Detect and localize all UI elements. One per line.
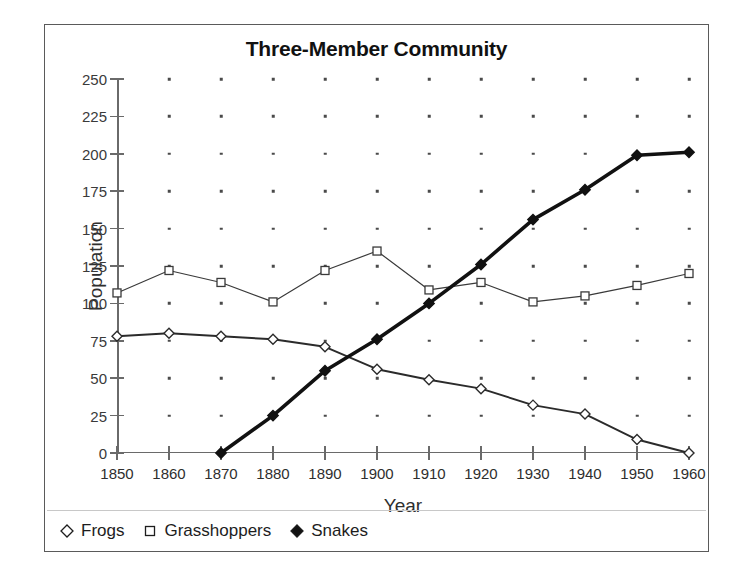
legend-item-frogs: Frogs [59,521,124,541]
filled-diamond-icon [289,523,305,539]
x-tick-label: 1850 [100,465,133,482]
x-axis-title: Year [117,495,689,517]
data-point-marker [685,269,693,277]
series-frogs [112,328,694,458]
series-grasshoppers [113,247,693,306]
data-point-marker [321,266,329,274]
data-point-marker [580,409,590,419]
y-tick-label: 125 [82,258,107,275]
x-tick-label: 1930 [516,465,549,482]
series-snakes [216,147,694,458]
chart-figure: Three-Member Community Population 250225… [44,24,709,552]
y-tick-label: 50 [90,370,107,387]
x-tick-label: 1880 [256,465,289,482]
legend-divider [47,510,706,511]
y-tick-label: 175 [82,183,107,200]
x-tick-label: 1860 [152,465,185,482]
data-point-marker [424,375,434,385]
open-square-icon [142,523,158,539]
data-point-marker [581,292,589,300]
data-point-marker [320,342,330,352]
data-point-marker [684,147,694,157]
data-point-marker [373,247,381,255]
legend-item-label: Grasshoppers [164,521,271,541]
legend-item-snakes: Snakes [289,521,368,541]
x-tick-label: 1910 [412,465,445,482]
data-point-marker [528,400,538,410]
data-point-marker [217,278,225,286]
chart-legend: FrogsGrasshoppersSnakes [59,521,368,541]
y-tick-label: 25 [90,407,107,424]
y-tick-label: 75 [90,332,107,349]
y-tick-label: 100 [82,295,107,312]
x-tick-label: 1870 [204,465,237,482]
data-point-marker [165,266,173,274]
chart-title: Three-Member Community [45,37,708,61]
data-point-marker [113,289,121,297]
data-point-marker [684,448,694,458]
y-tick-label: 250 [82,71,107,88]
legend-item-grasshoppers: Grasshoppers [142,521,271,541]
y-tick-label: 225 [82,108,107,125]
data-point-marker [425,286,433,294]
data-point-marker [216,331,226,341]
x-tick-label: 1890 [308,465,341,482]
data-point-marker [477,278,485,286]
series-layer [117,79,689,453]
x-tick-label: 1900 [360,465,393,482]
data-point-marker [164,328,174,338]
data-point-marker [372,364,382,374]
x-tick-label: 1960 [672,465,705,482]
x-tick-label: 1920 [464,465,497,482]
data-point-marker [632,435,642,445]
data-point-marker [268,334,278,344]
y-tick-label: 0 [99,445,107,462]
legend-item-label: Snakes [311,521,368,541]
x-tick-label: 1940 [568,465,601,482]
y-tick-label: 150 [82,220,107,237]
data-point-marker [633,281,641,289]
legend-item-label: Frogs [81,521,124,541]
x-tick-label: 1950 [620,465,653,482]
data-point-marker [529,298,537,306]
open-diamond-icon [59,523,75,539]
y-tick-label: 200 [82,145,107,162]
data-point-marker [269,298,277,306]
data-point-marker [476,384,486,394]
plot-area: 2502252001751501251007550250 18501860187… [117,79,689,453]
